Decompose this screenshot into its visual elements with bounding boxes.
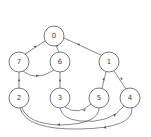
edge-4-to-1 xyxy=(114,71,126,89)
arrow-icon xyxy=(103,126,106,129)
arrow-icon xyxy=(120,77,122,80)
edge-6-to-0 xyxy=(56,46,59,52)
node-label: 2 xyxy=(17,94,21,102)
node-label: 3 xyxy=(58,94,62,102)
arrow-icon xyxy=(57,123,60,126)
node-3: 3 xyxy=(50,88,70,108)
edge-1-to-0 xyxy=(64,38,101,55)
node-label: 0 xyxy=(52,32,56,40)
edge-7-to-6 xyxy=(23,70,54,76)
node-label: 5 xyxy=(97,94,101,102)
arrow-icon xyxy=(18,79,20,82)
node-label: 4 xyxy=(128,94,133,102)
node-label: 7 xyxy=(17,58,21,66)
edges xyxy=(18,38,132,129)
node-6: 6 xyxy=(50,52,70,72)
node-2: 2 xyxy=(9,88,29,108)
node-5: 5 xyxy=(89,88,109,108)
node-0: 0 xyxy=(44,26,64,46)
node-1: 1 xyxy=(99,52,119,72)
node-label: 1 xyxy=(107,58,111,66)
graph-diagram: 0 7 6 1 2 3 5 4 xyxy=(0,0,151,137)
node-label: 6 xyxy=(58,58,63,66)
node-4: 4 xyxy=(120,88,140,108)
node-7: 7 xyxy=(9,52,29,72)
arrow-icon xyxy=(59,79,61,82)
edge-3-to-5 xyxy=(65,104,91,111)
